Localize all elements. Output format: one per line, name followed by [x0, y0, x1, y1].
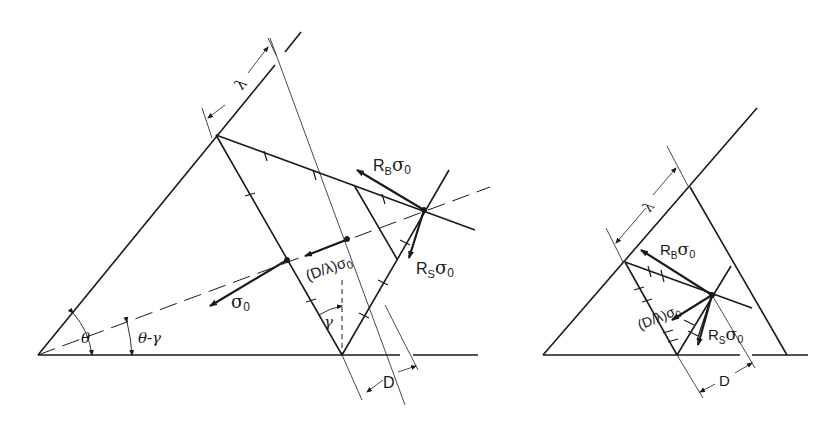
theta-gamma-arc [127, 322, 132, 355]
lambda-label: λ [231, 74, 251, 93]
lambda-dim-line-a [208, 105, 225, 118]
midpoint [285, 258, 290, 263]
right-d-label: D [719, 372, 730, 389]
theta-minus-gamma-label: θ-γ [138, 329, 161, 347]
d-ext-left [342, 355, 362, 400]
right-lambda-ext-b [667, 146, 688, 186]
slope-extension [285, 32, 301, 52]
right-lambda-dim-a [616, 208, 646, 243]
d-ext-right [385, 305, 418, 370]
wedge-shear-face [342, 170, 449, 355]
wedge-top-face [216, 135, 475, 230]
reference-line [270, 38, 405, 405]
right-d-dim-a [700, 384, 715, 392]
right-d-ext-left [677, 355, 703, 398]
dl-start-point [345, 237, 350, 242]
dl-sigma-label: (D/λ)σ0 [303, 251, 354, 285]
rb-sigma-label: RBσ0 [373, 154, 411, 177]
d-dim-b [398, 366, 416, 372]
right-rs-sigma-label: RSσ0 [708, 324, 743, 346]
right-labels: λ RBσ0 (D/λ)σ0 RSσ0 D [635, 198, 743, 389]
right-d-dim-b [735, 363, 752, 373]
right-junction-point [710, 293, 715, 298]
sigma0-label: σ0 [231, 291, 250, 314]
d-dim-a [367, 380, 383, 392]
junction-point [422, 208, 427, 213]
lambda-ext-a [202, 108, 212, 138]
gamma-label: γ [324, 313, 333, 331]
theta-label: θ [81, 329, 90, 347]
right-outer-face [690, 187, 787, 355]
right-lambda-dim-b [653, 168, 676, 195]
right-rb-sigma-label: RBσ0 [660, 239, 695, 261]
lambda-ext-b [268, 38, 276, 55]
inner-face [354, 185, 397, 259]
right-lambda-ext-a [606, 228, 623, 262]
lambda-dim-line-b [248, 47, 268, 73]
rs-sigma-label: RSσ0 [416, 257, 454, 280]
right-dl-sigma-label: (D/λ)σ0 [635, 301, 683, 335]
d-label: D [383, 374, 395, 391]
left-panel [38, 32, 490, 405]
wedge-force-diagram: λ RBσ0 RSσ0 (D/λ)σ0 σ0 θ θ-γ γ D [0, 0, 838, 423]
